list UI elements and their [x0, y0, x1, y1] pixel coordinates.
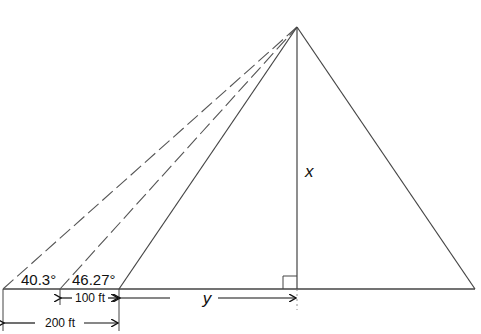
- label-angle-near: 46.27°: [72, 271, 116, 288]
- label-angle-far: 40.3°: [21, 271, 56, 288]
- label-100ft: 100 ft: [75, 291, 106, 305]
- triangle-diagram: 100 ft y 200 ft 40.3° 46.27° x: [0, 0, 481, 334]
- label-y: y: [202, 289, 213, 308]
- label-200ft: 200 ft: [45, 316, 76, 330]
- right-side-line: [297, 27, 475, 289]
- sight-line-mid: [60, 27, 297, 289]
- right-angle-marker: [283, 276, 297, 289]
- sight-line-near: [119, 27, 297, 289]
- sight-line-far: [3, 27, 297, 289]
- label-x: x: [304, 162, 314, 181]
